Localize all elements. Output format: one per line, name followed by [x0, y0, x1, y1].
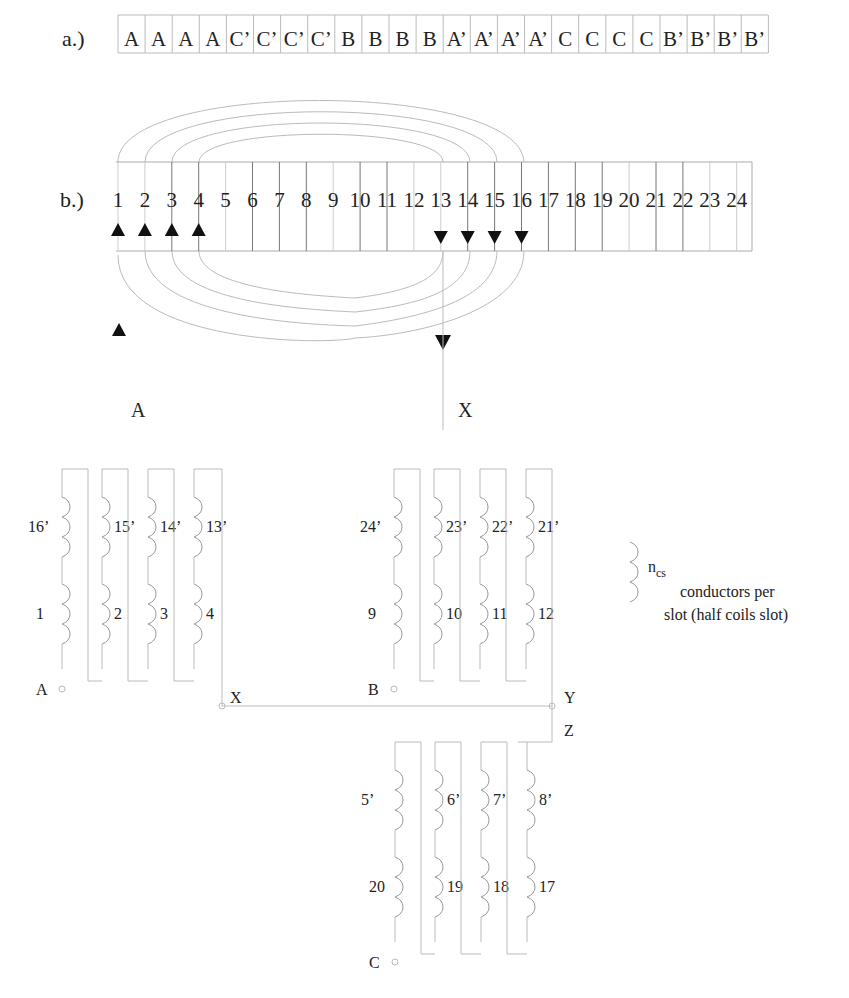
legend-line2: slot (half coils slot) — [664, 606, 788, 624]
legend-subscript: cs — [656, 566, 666, 580]
coil-icon — [526, 584, 534, 644]
coil-icon — [102, 497, 110, 557]
part-b-label: b.) — [60, 187, 84, 212]
slot-number: 20 — [619, 188, 640, 212]
coil-icon — [62, 497, 70, 557]
slot-number: 13 — [430, 188, 451, 212]
coil-label: 24’ — [360, 518, 381, 535]
terminal-x-label: X — [458, 399, 473, 421]
slot-number: 8 — [301, 188, 312, 212]
coil-label: 15’ — [114, 518, 135, 535]
coil-icon — [434, 584, 442, 644]
slot-cell: C’ — [229, 27, 250, 51]
slot-cell: C’ — [311, 27, 332, 51]
coil-label: 1 — [36, 605, 44, 622]
legend-symbol: n — [648, 558, 656, 575]
coil-icon — [395, 857, 403, 917]
slot-cell: B — [341, 27, 355, 51]
coil-label: 3 — [160, 605, 168, 622]
phase-a-circuit: 16’115’214’313’4A — [28, 469, 227, 706]
slot-number: 24 — [726, 188, 748, 212]
coil-icon — [394, 497, 402, 557]
slot-cell: B — [396, 27, 410, 51]
terminal-z-label: Z — [564, 722, 574, 739]
coil-icon — [102, 584, 110, 644]
coil-label: 11 — [492, 605, 507, 622]
legend-line1: conductors per — [680, 583, 775, 601]
current-up-arrow-icon — [138, 223, 152, 236]
slot-number: 5 — [220, 188, 231, 212]
current-up-arrow-icon — [111, 223, 125, 236]
slot-cell: A — [151, 27, 167, 51]
slot-number: 19 — [592, 188, 613, 212]
coil-icon — [148, 584, 156, 644]
slot-number: 10 — [350, 188, 371, 212]
coil-icon — [480, 497, 488, 557]
slot-number: 11 — [377, 188, 397, 212]
coil-label: 4 — [206, 605, 214, 622]
slot-cell: C — [612, 27, 626, 51]
slot-number: 12 — [403, 188, 424, 212]
coil-label: 21’ — [538, 518, 559, 535]
slot-number: 21 — [646, 188, 667, 212]
current-up-arrow-icon — [165, 223, 179, 236]
slot-number: 22 — [672, 188, 693, 212]
slot-cell: A — [205, 27, 221, 51]
slot-number: 3 — [167, 188, 178, 212]
coil-icon — [62, 584, 70, 644]
slot-cell: C’ — [284, 27, 305, 51]
start-terminal-label: C — [369, 954, 380, 971]
slot-number: 1 — [113, 188, 124, 212]
slot-number: 4 — [193, 188, 204, 212]
slot-cell: B’ — [663, 27, 684, 51]
phase-b-circuit: 24’923’1022’1121’12B — [360, 469, 559, 698]
slot-cell: A’ — [501, 27, 521, 51]
coil-icon — [434, 497, 442, 557]
end-winding-top — [118, 101, 524, 163]
svg-text:ncs: ncs — [648, 558, 666, 580]
coil-label: 9 — [368, 605, 376, 622]
slot-number: 18 — [565, 188, 586, 212]
coil-icon — [194, 584, 202, 644]
slot-cell: B — [423, 27, 437, 51]
start-terminal-label: B — [368, 681, 379, 698]
coil-icon — [194, 497, 202, 557]
slot-number: 23 — [699, 188, 720, 212]
slot-cell: A’ — [528, 27, 548, 51]
slot-cell: C — [585, 27, 599, 51]
slot-distribution-table: AAAAC’C’C’C’BBBBA’A’A’A’CCCCB’B’B’B’ — [118, 15, 768, 53]
coil-label: 14’ — [160, 518, 181, 535]
coil-icon — [480, 584, 488, 644]
coil-label: 22’ — [492, 518, 513, 535]
end-winding-bottom — [118, 251, 524, 341]
current-down-arrow-icon — [488, 231, 502, 244]
coil-icon — [527, 770, 535, 830]
winding-diagram: a.) AAAAC’C’C’C’BBBBA’A’A’A’CCCCB’B’B’B’… — [0, 0, 849, 998]
terminal-y-label: Y — [564, 689, 576, 706]
slot-number: 7 — [274, 188, 285, 212]
part-a-label: a.) — [62, 26, 85, 51]
coil-label: 7’ — [493, 791, 506, 808]
coil-icon — [526, 497, 534, 557]
slot-cell: A — [178, 27, 194, 51]
coil-icon — [527, 857, 535, 917]
slot-cell: C’ — [257, 27, 278, 51]
coil-icon — [435, 770, 443, 830]
slot-cell: A’ — [447, 27, 467, 51]
slot-numbers: 123456789101112131415161718192021222324 — [113, 188, 748, 212]
coil-label: 6’ — [447, 791, 460, 808]
terminal-a-label: A — [131, 399, 146, 421]
coil-label: 13’ — [206, 518, 227, 535]
coil-label: 8’ — [539, 791, 552, 808]
coil-label: 5’ — [361, 791, 374, 808]
slot-cell: B’ — [744, 27, 765, 51]
coil-label: 16’ — [28, 518, 49, 535]
slot-number: 16 — [511, 188, 532, 212]
coil-label: 17 — [539, 878, 555, 895]
coil-icon — [481, 770, 489, 830]
phase-c-circuit: 5’206’197’188’17C — [361, 742, 555, 971]
coil-icon — [148, 497, 156, 557]
slot-cell: B’ — [690, 27, 711, 51]
current-down-arrow-icon — [515, 231, 529, 244]
slot-number: 15 — [484, 188, 505, 212]
